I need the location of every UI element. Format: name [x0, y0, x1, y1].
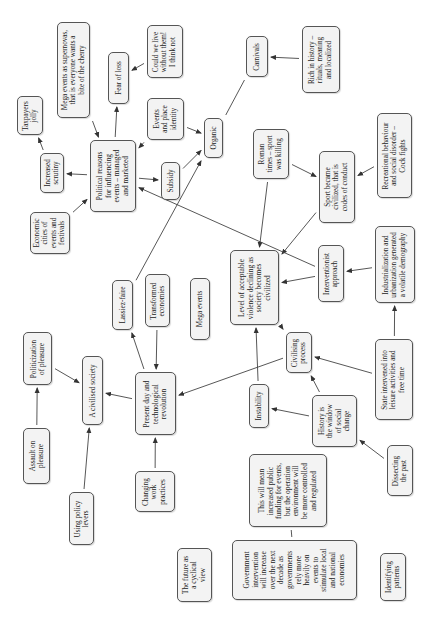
node-label: Taxpayers jolly — [22, 98, 39, 133]
node-assault-on-pleasure: Assault on pleasure — [23, 428, 50, 484]
node-label: Identifying patterns — [385, 555, 402, 599]
connector-using-policy-levers-to-a-civilised-society — [84, 428, 89, 489]
node-label: Government intervention will increase ov… — [243, 542, 346, 598]
node-mega-events: Mega events — [190, 278, 210, 340]
node-label: Mega events — [196, 280, 204, 338]
node-label: Industrialization and urbanization gener… — [382, 228, 407, 301]
node-politicization-of-pleasure: Politicization of pleasure — [23, 332, 52, 385]
connector-politicization-of-pleasure-to-a-civilised-society — [55, 369, 79, 383]
connector-dissecting-the-past-to-history-window — [360, 440, 384, 458]
node-state-intervened: State intervened into leisure activities… — [375, 339, 413, 420]
node-label: State intervened into leisure activities… — [381, 341, 406, 418]
connector-interventionist-approach-to-level-of-acceptable-violence — [282, 276, 315, 282]
connector-history-window-to-civilising-process — [311, 376, 319, 392]
node-label: Recreational behaviour and social disord… — [382, 115, 407, 196]
connector-rich-in-history-to-carnivals — [271, 57, 299, 58]
connector-organic-to-carnivals — [226, 80, 245, 115]
node-label: Using policy levers — [73, 494, 90, 543]
node-events-place-identity: Events and place identity — [147, 98, 184, 140]
node-label: Political reasons for influencing events… — [96, 142, 130, 210]
connector-history-window-to-instability — [272, 409, 309, 416]
node-label: Fear of loss — [114, 54, 122, 102]
node-taxpayers-jolly: Taxpayers jolly — [17, 96, 43, 135]
node-label: Roman times – sport was killing — [258, 131, 283, 177]
node-increased-scrutiny: Increased scrutiny — [40, 153, 64, 193]
node-label: History is the window of social change — [318, 397, 352, 445]
node-political-reasons: Political reasons for influencing events… — [90, 140, 136, 212]
node-government-intervention: Government intervention will increase ov… — [232, 540, 357, 600]
connector-mega-events-supernovas-to-political-reasons — [93, 121, 99, 137]
node-label: Present day and technological revolution — [143, 374, 169, 433]
node-present-day: Present day and technological revolution — [135, 372, 176, 435]
node-label: Assault on pleasure — [28, 430, 45, 482]
node-label: Sport became civilized, that is codes of… — [324, 153, 349, 221]
node-subsidy: Subsidy — [161, 162, 180, 200]
connector-events-place-identity-to-organic — [187, 128, 201, 134]
node-label: Politicization of pleasure — [29, 334, 46, 383]
connector-political-reasons-to-increased-scrutiny — [67, 174, 87, 175]
node-label: Lassiez-faire — [118, 282, 126, 328]
node-sport-became-civilized: Sport became civilized, that is codes of… — [319, 151, 355, 223]
node-economic-cities: Economic cities of events and festivals — [30, 212, 70, 254]
connector-transformed-economies-to-present-day — [156, 330, 157, 369]
connector-economic-cities-to-political-reasons — [73, 200, 87, 213]
node-dissecting-the-past: Dissecting the past — [387, 445, 413, 496]
connector-recreational-behaviour-to-sport-became-civilized — [358, 167, 374, 176]
node-carnivals: Carnivals — [246, 36, 268, 77]
node-fear-of-loss: Fear of loss — [108, 52, 129, 104]
node-organic: Organic — [204, 118, 223, 158]
node-label: The future as a cyclical view — [182, 550, 207, 600]
node-label: Could we live without them! I think not — [152, 27, 177, 76]
connector-events-place-identity-to-political-reasons — [139, 142, 144, 147]
node-label: Rich in history – rituals, meaning and l… — [308, 28, 333, 91]
connector-sport-became-civilized-to-level-of-acceptable-violence — [282, 213, 316, 254]
connector-state-intervened-to-civilising-process — [315, 357, 372, 373]
node-a-civilised-society: A civilised society — [82, 356, 103, 425]
node-label: This will mean increased public funding … — [258, 456, 318, 525]
node-label: Mega events as supernovas, that is every… — [61, 24, 86, 116]
node-level-of-acceptable-violence: Level of acceptable violence declining a… — [230, 250, 279, 325]
node-history-window: History is the window of social change — [312, 395, 357, 447]
node-lassiez-faire: Lassiez-faire — [112, 280, 133, 330]
connector-increased-scrutiny-to-taxpayers-jolly — [39, 138, 44, 150]
node-label: Dissecting the past — [392, 447, 409, 494]
node-could-we-live: Could we live without them! I think not — [147, 25, 183, 78]
node-label: Instability — [255, 386, 263, 426]
node-label: Subsidy — [166, 164, 174, 198]
node-label: Events and place identity — [153, 100, 178, 138]
node-this-will-mean: This will mean increased public funding … — [249, 454, 327, 527]
node-label: Changing work practices — [142, 473, 167, 510]
node-transformed-economies: Transformed economies — [145, 274, 170, 327]
node-label: Organic — [209, 120, 217, 156]
node-label: Transformed economies — [149, 276, 166, 325]
node-civilising-process: Civilising process — [286, 332, 312, 373]
node-rich-in-history: Rich in history – rituals, meaning and l… — [302, 26, 340, 93]
connector-could-we-live-to-fear-of-loss — [132, 63, 144, 70]
connector-instability-to-level-of-acceptable-violence — [256, 328, 258, 381]
node-label: Level of acceptable violence declining a… — [237, 252, 271, 323]
node-label: Civilising process — [291, 334, 308, 371]
node-identifying-patterns: Identifying patterns — [380, 553, 406, 601]
connector-present-day-to-a-civilised-society — [106, 393, 132, 398]
node-roman-times: Roman times – sport was killing — [253, 129, 289, 179]
connector-industrialization-to-interventionist-approach — [347, 268, 372, 272]
connector-present-day-to-lassiez-faire — [132, 333, 144, 369]
connector-this-will-mean-to-government-intervention — [291, 530, 292, 537]
node-using-policy-levers: Using policy levers — [69, 492, 94, 545]
node-future-cyclical: The future as a cyclical view — [177, 548, 212, 602]
node-industrialization: Industrialization and urbanization gener… — [375, 226, 415, 303]
node-mega-events-supernovas: Mega events as supernovas, that is every… — [57, 22, 90, 118]
connector-level-of-acceptable-violence-to-civilising-process — [282, 328, 283, 329]
connector-roman-times-to-level-of-acceptable-violence — [260, 182, 268, 247]
connector-political-reasons-to-fear-of-loss — [115, 107, 117, 137]
node-label: Increased scrutiny — [44, 155, 61, 191]
node-label: A civilised society — [88, 358, 96, 423]
node-recreational-behaviour: Recreational behaviour and social disord… — [377, 113, 412, 198]
node-changing-work-practices: Changing work practices — [135, 471, 175, 512]
node-label: Economic cities of events and festivals — [33, 214, 67, 252]
node-interventionist-approach: Interventionist approach — [318, 245, 344, 302]
concept-map: Taxpayers jolly Increased scrutiny Mega … — [0, 0, 428, 627]
connector-roman-times-to-sport-became-civilized — [292, 165, 316, 177]
node-instability: Instability — [249, 384, 269, 428]
node-label: Interventionist approach — [323, 247, 340, 300]
